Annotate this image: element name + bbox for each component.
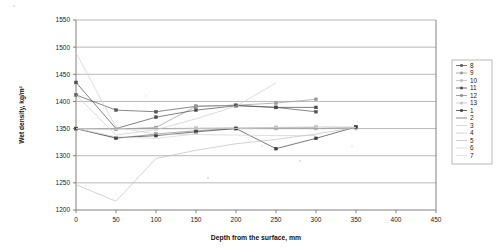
data-point [275,147,278,150]
legend-marker [460,102,463,105]
data-point [155,134,158,137]
data-point [315,98,318,101]
data-point [155,116,158,119]
data-point [275,102,278,105]
x-tick-label: 50 [112,216,120,223]
data-point [195,109,198,112]
legend-label: 13 [470,99,478,106]
legend-label: 7 [470,152,474,159]
data-point [75,81,78,84]
data-point [315,106,318,109]
x-tick-label: 200 [231,216,242,223]
data-point [315,137,318,140]
data-point [315,110,318,113]
x-tick-label: 150 [191,216,202,223]
x-tick-label: 300 [311,216,322,223]
legend-marker [460,109,463,112]
y-tick-label: 1200 [56,206,71,213]
data-point [195,127,198,130]
data-point [195,105,198,108]
x-tick-label: 0 [74,216,78,223]
legend-label: 3 [470,122,474,129]
legend-marker [460,87,463,90]
y-tick-label: 1400 [56,98,71,105]
legend-marker [460,94,463,97]
legend-label: 1 [470,107,474,114]
legend-label: 4 [470,129,474,136]
x-tick-label: 450 [431,216,442,223]
y-tick-label: 1350 [56,125,71,132]
chart-legend[interactable]: 89101112131234567 [452,60,492,164]
y-axis-label: Wet density, kg/m³ [18,85,26,143]
legend-label: 6 [470,144,474,151]
legend-marker [460,64,463,67]
y-tick-label: 1500 [56,44,71,51]
data-point [155,110,158,113]
x-tick-label: 400 [391,216,402,223]
data-point [115,109,118,112]
wet-density-line-chart: 12001250130013501400145015001550 0501001… [0,0,500,249]
y-tick-label: 1550 [56,16,71,23]
legend-label: 10 [470,77,478,84]
legend-marker [460,79,463,82]
chart-container: 12001250130013501400145015001550 0501001… [0,0,500,249]
legend-label: 5 [470,137,474,144]
legend-label: 8 [470,62,474,69]
x-tick-label: 350 [351,216,362,223]
legend-label: 2 [470,114,474,121]
legend-label: 9 [470,69,474,76]
y-tick-label: 1450 [56,71,71,78]
y-tick-label: 1300 [56,152,71,159]
x-axis-label: Depth from the surface, mm [211,234,301,242]
legend-marker [460,72,463,75]
x-tick-label: 250 [271,216,282,223]
y-tick-label: 1250 [56,179,71,186]
x-tick-label: 100 [151,216,162,223]
chart-background [0,0,500,249]
data-point [275,106,278,109]
legend-label: 12 [470,92,478,99]
legend-label: 11 [470,84,477,91]
